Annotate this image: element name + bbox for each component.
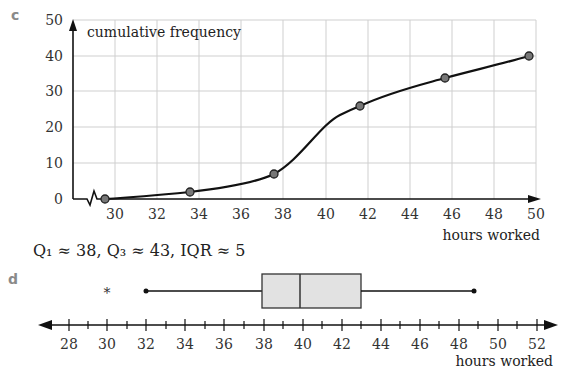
number-line-right-arrow-icon (544, 320, 558, 330)
grid (73, 20, 536, 199)
svg-text:52: 52 (528, 336, 546, 352)
data-point (186, 188, 194, 196)
svg-text:46: 46 (411, 336, 429, 352)
x-axis-label: hours worked (442, 227, 540, 243)
svg-text:34: 34 (176, 336, 194, 352)
svg-text:42: 42 (359, 206, 377, 222)
part-c-label: c (11, 7, 19, 23)
svg-text:32: 32 (148, 206, 166, 222)
svg-text:40: 40 (45, 48, 63, 64)
y-tick-labels: 0 10 20 30 40 50 (45, 12, 63, 207)
svg-text:20: 20 (45, 119, 63, 135)
outlier-marker: * (104, 285, 111, 301)
svg-text:34: 34 (190, 206, 208, 222)
y-axis-arrow-icon (69, 19, 77, 31)
svg-text:38: 38 (274, 206, 292, 222)
svg-text:36: 36 (215, 336, 233, 352)
data-point (270, 170, 278, 178)
svg-text:50: 50 (489, 336, 507, 352)
svg-text:50: 50 (527, 206, 545, 222)
svg-text:40: 40 (294, 336, 312, 352)
number-line-left-arrow-icon (38, 320, 52, 330)
x-tick-labels: 30 32 34 36 38 40 42 44 46 48 50 (106, 206, 545, 222)
boxplot-x-axis-label: hours worked (455, 353, 553, 369)
y-axis-label: cumulative frequency (87, 24, 241, 40)
svg-text:38: 38 (255, 336, 273, 352)
x-axis (73, 191, 530, 205)
svg-text:48: 48 (485, 206, 503, 222)
max-point (472, 289, 477, 294)
svg-text:0: 0 (54, 191, 63, 207)
svg-text:30: 30 (98, 336, 116, 352)
svg-text:30: 30 (45, 83, 63, 99)
number-line-labels: 28 30 32 34 36 38 40 42 44 46 48 50 52 (60, 336, 546, 352)
svg-text:40: 40 (317, 206, 335, 222)
svg-text:46: 46 (443, 206, 461, 222)
chart-figure: c 0 10 20 30 40 50 cumulative frequency … (0, 0, 569, 370)
data-point (525, 52, 533, 60)
svg-text:42: 42 (333, 336, 351, 352)
svg-text:50: 50 (45, 12, 63, 28)
x-axis-arrow-icon (528, 195, 541, 203)
data-point (356, 102, 364, 110)
quartile-summary: Q₁ ≈ 38, Q₃ ≈ 43, IQR ≈ 5 (33, 241, 246, 260)
svg-text:44: 44 (372, 336, 390, 352)
part-d-label: d (8, 271, 18, 287)
data-point (441, 74, 449, 82)
svg-text:30: 30 (106, 206, 124, 222)
svg-text:32: 32 (137, 336, 155, 352)
svg-text:36: 36 (232, 206, 250, 222)
svg-text:44: 44 (401, 206, 419, 222)
svg-text:48: 48 (450, 336, 468, 352)
svg-text:28: 28 (60, 336, 78, 352)
svg-text:10: 10 (45, 155, 63, 171)
data-point (101, 195, 109, 203)
min-point (144, 289, 149, 294)
iqr-box (262, 274, 361, 308)
